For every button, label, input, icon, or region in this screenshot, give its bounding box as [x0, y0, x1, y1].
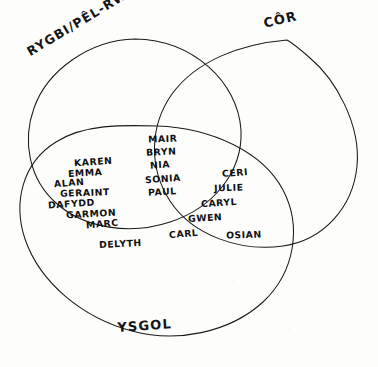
member-name: CERI	[222, 166, 249, 179]
member-name: NIA	[150, 158, 171, 170]
venn-diagram-page: RYGBI/PÊL-RWYD CÔR YSGOL KARENEMMAALANGE…	[0, 0, 378, 367]
member-name: BRYN	[146, 145, 177, 158]
member-name: GWEN	[188, 211, 223, 224]
member-name: MAIR	[148, 132, 178, 144]
member-name: OSIAN	[226, 228, 262, 240]
member-name: JULIE	[214, 181, 244, 193]
member-name: DELYTH	[99, 237, 142, 250]
member-name: PAUL	[148, 185, 177, 197]
